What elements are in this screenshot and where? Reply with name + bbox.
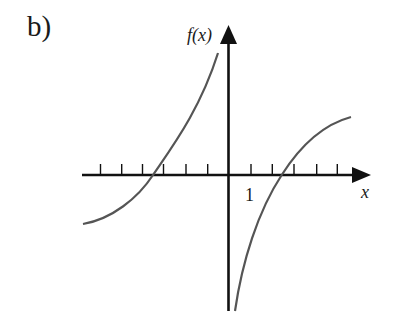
x-axis-arrow-icon — [352, 167, 371, 183]
curve-left-branch — [83, 53, 218, 224]
x-ticks — [101, 164, 338, 175]
y-axis-arrow-icon — [220, 25, 237, 44]
y-axis-label: f(x) — [187, 25, 212, 46]
tick-label-1: 1 — [245, 185, 254, 205]
function-graph: 1 x f(x) — [0, 0, 397, 328]
curve-right-branch — [235, 117, 351, 311]
x-axis-label: x — [360, 182, 369, 202]
